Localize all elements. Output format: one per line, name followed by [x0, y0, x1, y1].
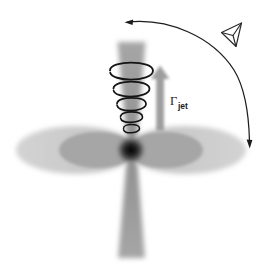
gamma-symbol: Γ [170, 94, 177, 108]
black-hole-core [119, 139, 143, 162]
agn-jet-diagram: Γ jet [0, 0, 265, 264]
figure-root: Γ jet [0, 0, 265, 264]
black-hole [119, 139, 143, 162]
gamma-subscript: jet [177, 101, 188, 111]
